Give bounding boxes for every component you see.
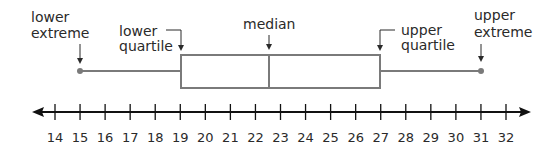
axis-tick-label: 26	[347, 130, 364, 145]
label-upper-quartile: upper quartile	[377, 22, 455, 53]
svg-text:upper: upper	[401, 22, 442, 38]
quartile-box	[181, 55, 380, 88]
axis-tick-label: 19	[172, 130, 189, 145]
axis-tick-label: 18	[147, 130, 164, 145]
axis-tick-label: 16	[97, 130, 114, 145]
axis-tick-label: 29	[423, 130, 440, 145]
number-line: 14151617181920212223242526272829303132	[32, 104, 531, 145]
axis-tick-label: 20	[197, 130, 214, 145]
axis-tick-label: 24	[297, 130, 314, 145]
svg-text:extreme: extreme	[31, 25, 89, 41]
axis-tick-label: 23	[272, 130, 289, 145]
axis-tick-label: 25	[322, 130, 339, 145]
axis-tick-label: 14	[47, 130, 64, 145]
axis-tick-label: 32	[498, 130, 515, 145]
label-lower-extreme: lower extreme	[31, 9, 89, 64]
upper-extreme-point	[478, 68, 484, 74]
svg-text:lower: lower	[119, 23, 158, 39]
axis-tick-label: 27	[372, 130, 389, 145]
box-plot	[77, 55, 484, 88]
axis-ticks: 14151617181920212223242526272829303132	[47, 104, 515, 145]
axis-tick-label: 21	[222, 130, 239, 145]
svg-text:quartile: quartile	[119, 38, 173, 54]
axis-tick-label: 17	[122, 130, 139, 145]
axis-tick-label: 22	[247, 130, 264, 145]
axis-tick-label: 31	[473, 130, 490, 145]
svg-text:quartile: quartile	[401, 37, 455, 53]
svg-text:upper: upper	[474, 7, 515, 23]
label-upper-extreme: upper extreme	[474, 7, 532, 62]
lower-extreme-point	[77, 68, 83, 74]
label-median: median	[243, 16, 295, 50]
arrow-down-icon	[380, 30, 395, 47]
label-lower-quartile: lower quartile	[119, 23, 184, 54]
svg-text:extreme: extreme	[474, 24, 532, 40]
axis-tick-label: 30	[448, 130, 465, 145]
box-plot-diagram: lower extreme lower quartile median uppe…	[0, 0, 551, 149]
svg-text:lower: lower	[31, 9, 70, 25]
axis-tick-label: 15	[72, 130, 89, 145]
svg-text:median: median	[243, 16, 295, 32]
axis-tick-label: 28	[398, 130, 415, 145]
